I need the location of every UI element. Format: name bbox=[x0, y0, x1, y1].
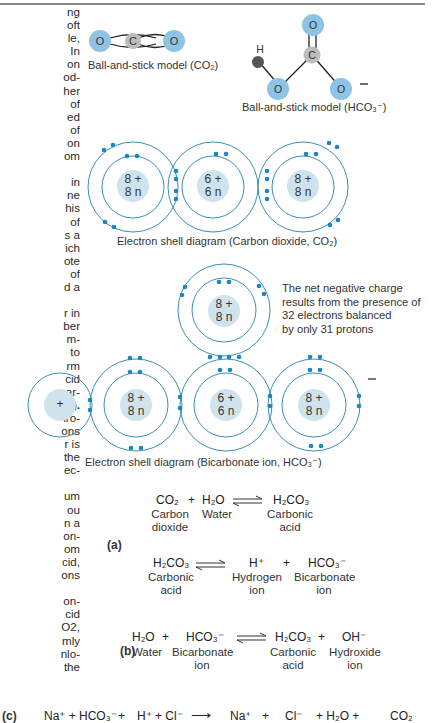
eq-b-plus2: + bbox=[318, 630, 325, 644]
label-hydrogen-ion: Hydrogenion bbox=[232, 571, 282, 597]
caption-co2-ball-stick: Ball-and-stick model (CO₂) bbox=[88, 59, 218, 71]
part-label-a: (a) bbox=[107, 538, 122, 552]
eq-a1-co2: CO₂ bbox=[156, 493, 179, 507]
svg-text:H: H bbox=[256, 43, 264, 55]
net-charge-note: The net negative charge results from the… bbox=[282, 282, 440, 336]
eq-a1-h2o: H₂O bbox=[202, 493, 225, 507]
eq-b-plus1: + bbox=[162, 630, 169, 644]
eq-a2-h: H⁺ bbox=[249, 556, 264, 570]
label-carbonic-acid: Carbonicacid bbox=[268, 646, 318, 672]
equilibrium-arrow-icon bbox=[237, 633, 266, 643]
label-carbonic-acid: Carbonicacid bbox=[265, 508, 315, 534]
svg-text:C: C bbox=[129, 35, 137, 47]
eq-c-term: Na⁺ bbox=[230, 709, 251, 723]
svg-text:C: C bbox=[308, 49, 316, 61]
eq-c-term: CO₂ bbox=[390, 709, 413, 723]
nucleus-label: 6 +6 n bbox=[211, 392, 241, 418]
nucleus-label: 8 +8 n bbox=[121, 392, 151, 418]
equilibrium-arrow-icon bbox=[233, 496, 262, 506]
label-carbon-dioxide: Carbondioxide bbox=[145, 508, 195, 534]
eq-b-h2o: H₂O bbox=[132, 630, 155, 644]
eq-b-h2co3: H₂CO₃ bbox=[275, 630, 311, 644]
label-bicarbonate-ion: Bicarbonateion bbox=[294, 571, 354, 597]
svg-text:O: O bbox=[337, 83, 345, 95]
eq-c-term: Na⁺ + HCO₃⁻ bbox=[44, 709, 117, 723]
eq-a2-h2co3: H₂CO₃ bbox=[153, 556, 189, 570]
caption-co2-shell: Electron shell diagram (Carbon dioxide, … bbox=[117, 235, 337, 247]
hydrogen-nucleus-label: + bbox=[50, 398, 70, 411]
nucleus-label: 6 +6 n bbox=[198, 173, 228, 199]
eq-c-term: + bbox=[262, 709, 269, 723]
nucleus-label: 8 +8 n bbox=[209, 298, 239, 324]
reaction-arrow-icon: ⟶ bbox=[191, 707, 211, 723]
eq-b-hco3: HCO₃⁻ bbox=[186, 630, 224, 644]
part-label-c: (c) bbox=[2, 709, 17, 723]
eq-a1-h2co3: H₂CO₃ bbox=[273, 493, 309, 507]
svg-text:O: O bbox=[170, 35, 179, 47]
eq-b-oh: OH⁻ bbox=[342, 630, 366, 644]
caption-hco3-ball-stick: Ball-and-stick model (HCO₃⁻) bbox=[242, 101, 386, 114]
label-hydroxide-ion: Hydroxideion bbox=[327, 646, 383, 672]
eq-a2-hco3: HCO₃⁻ bbox=[308, 556, 346, 570]
co2-ball-stick-model: O C O bbox=[89, 30, 185, 52]
nucleus-label: 8 +8 n bbox=[288, 173, 318, 199]
equilibrium-arrow-icon bbox=[196, 560, 225, 570]
svg-text:O: O bbox=[274, 83, 282, 95]
eq-a1-plus: + bbox=[188, 493, 195, 507]
eq-c-term: H⁺ + Cl⁻ bbox=[137, 709, 183, 723]
svg-text:O: O bbox=[309, 19, 317, 31]
svg-text:O: O bbox=[96, 35, 105, 47]
eq-c-term: + H₂O + bbox=[316, 709, 359, 723]
eq-a2-plus: + bbox=[283, 556, 290, 570]
label-carbonic-acid: Carbonicacid bbox=[146, 571, 196, 597]
label-bicarbonate-ion: Bicarbonateion bbox=[172, 646, 232, 672]
nucleus-label: 8 +8 n bbox=[299, 392, 329, 418]
caption-hco3-shell: Electron shell diagram (Bicarbonate ion,… bbox=[85, 456, 322, 469]
eq-c-term: Cl⁻ bbox=[285, 709, 302, 723]
label-water: Water bbox=[197, 508, 237, 521]
label-water: Water bbox=[127, 646, 167, 659]
hco3-ball-stick-model: H O C O O bbox=[252, 14, 368, 100]
nucleus-label: 8 +8 n bbox=[118, 173, 148, 199]
eq-c-term: + bbox=[118, 709, 125, 723]
